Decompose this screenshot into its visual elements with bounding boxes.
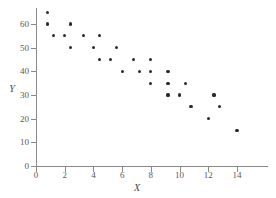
data-point xyxy=(218,105,221,108)
data-point xyxy=(98,34,101,37)
y-tick-label: 40 xyxy=(0,66,29,76)
y-tick-label: 10 xyxy=(0,137,29,147)
x-tick-label-wrap: 8 xyxy=(141,170,161,181)
x-tick-label: 12 xyxy=(198,170,218,180)
x-axis-line xyxy=(36,166,268,167)
data-point xyxy=(138,70,141,73)
data-point xyxy=(178,93,181,96)
data-point xyxy=(109,58,112,61)
y-tick-label-wrap: 10 xyxy=(0,137,29,147)
x-tick-label-wrap: 4 xyxy=(83,170,103,181)
data-point xyxy=(69,22,72,25)
y-tick xyxy=(31,119,36,120)
y-tick-label: 0 xyxy=(0,161,29,171)
data-point xyxy=(149,82,152,85)
data-point xyxy=(121,70,124,73)
x-tick-label: 8 xyxy=(141,170,161,180)
x-tick-label-wrap: 12 xyxy=(198,170,218,181)
x-tick-label-wrap: 0 xyxy=(26,170,46,181)
y-tick xyxy=(31,95,36,96)
data-point xyxy=(69,46,72,49)
x-tick-label-wrap: 6 xyxy=(112,170,132,181)
y-tick-label-wrap: 40 xyxy=(0,66,29,76)
data-point xyxy=(235,129,238,132)
data-point xyxy=(46,22,49,25)
y-tick-label-wrap: 60 xyxy=(0,19,29,29)
data-point xyxy=(115,46,118,49)
x-tick-label: 14 xyxy=(227,170,247,180)
data-point xyxy=(166,70,169,73)
x-tick-label-wrap: 14 xyxy=(227,170,247,181)
x-tick-label: 2 xyxy=(55,170,75,180)
y-tick-label-wrap: 50 xyxy=(0,43,29,53)
y-axis-line xyxy=(36,8,37,167)
data-point xyxy=(92,46,95,49)
y-tick-label-wrap: 0 xyxy=(0,161,29,171)
x-tick-label: 10 xyxy=(170,170,190,180)
y-tick xyxy=(31,142,36,143)
y-tick xyxy=(31,71,36,72)
data-point xyxy=(189,105,192,108)
y-tick xyxy=(31,24,36,25)
y-tick xyxy=(31,48,36,49)
y-tick-label: 20 xyxy=(0,114,29,124)
x-tick-label-wrap: 10 xyxy=(170,170,190,181)
data-point xyxy=(184,82,187,85)
data-point xyxy=(132,58,135,61)
x-axis-title: X xyxy=(127,182,147,193)
data-point xyxy=(63,34,66,37)
y-tick-label: 50 xyxy=(0,43,29,53)
data-point xyxy=(166,82,169,85)
data-point xyxy=(52,34,55,37)
x-tick-label: 0 xyxy=(26,170,46,180)
data-point xyxy=(207,117,210,120)
x-tick-label-wrap: 2 xyxy=(55,170,75,181)
data-point xyxy=(149,58,152,61)
data-point xyxy=(149,70,152,73)
x-tick-label: 4 xyxy=(83,170,103,180)
data-point xyxy=(166,93,169,96)
y-tick-label: 60 xyxy=(0,19,29,29)
data-point xyxy=(212,93,215,96)
y-axis-title: Y xyxy=(6,83,18,94)
y-tick-label-wrap: 20 xyxy=(0,114,29,124)
scatter-chart: 0102030405060 02468101214 X Y xyxy=(0,0,276,198)
data-point xyxy=(98,58,101,61)
data-point xyxy=(46,11,49,14)
x-tick-label: 6 xyxy=(112,170,132,180)
data-point xyxy=(82,34,85,37)
